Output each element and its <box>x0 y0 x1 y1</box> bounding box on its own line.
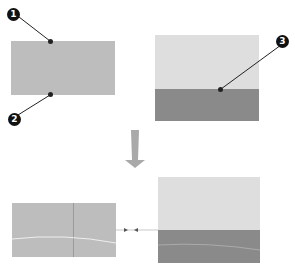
callout-badge-3: 3 <box>276 35 289 48</box>
result-rectangle-left <box>12 203 116 257</box>
down-arrow-icon <box>125 130 145 168</box>
result-rectangle-right-top <box>158 177 260 230</box>
callout-badge-1: 1 <box>7 8 20 21</box>
curve-line <box>12 203 116 257</box>
callout-dot-2 <box>48 92 53 97</box>
callout-dot-3 <box>218 87 223 92</box>
callout-dot-1 <box>48 39 53 44</box>
callout-badge-2: 2 <box>8 113 21 126</box>
result-rectangle-right-band <box>158 230 260 263</box>
